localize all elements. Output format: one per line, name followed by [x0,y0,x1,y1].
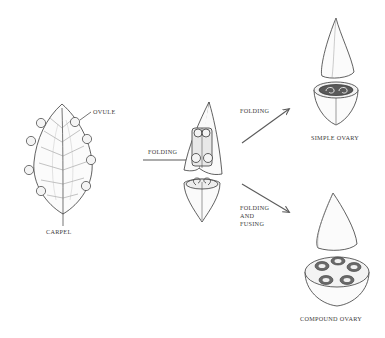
ovule-icon [36,118,45,127]
ovule-icon [24,165,33,174]
folding-fusing-label-line2: AND [240,212,254,220]
simple-ovary-base [314,82,358,125]
ovule-icon [36,186,45,195]
ovule-icon [81,181,90,190]
folding-upper-label: FOLDING [240,107,269,115]
compound-ovary-label: COMPOUND OVARY [300,315,362,323]
folded-carpel-cross-section [184,178,220,222]
ovule-label: OVULE [93,108,115,116]
simple-ovary-top [321,18,354,78]
compound-ovary-base [305,257,369,306]
ovule-icon [26,136,35,145]
ovule-icon [70,117,79,126]
folding-fusing-label-line1: FOLDING [240,204,269,212]
diagram-canvas [0,0,385,338]
ovule-icon [82,134,91,143]
folding-main-label: FOLDING [148,148,177,156]
compound-ovary-top [317,193,357,250]
ovule-pointer-line [80,112,91,120]
folding-fusing-label-line3: FUSING [240,220,264,228]
folded-carpel [184,102,222,175]
ovule-icon [86,155,95,164]
carpel-label: CARPEL [46,228,72,236]
simple-ovary-label: SIMPLE OVARY [311,134,359,142]
